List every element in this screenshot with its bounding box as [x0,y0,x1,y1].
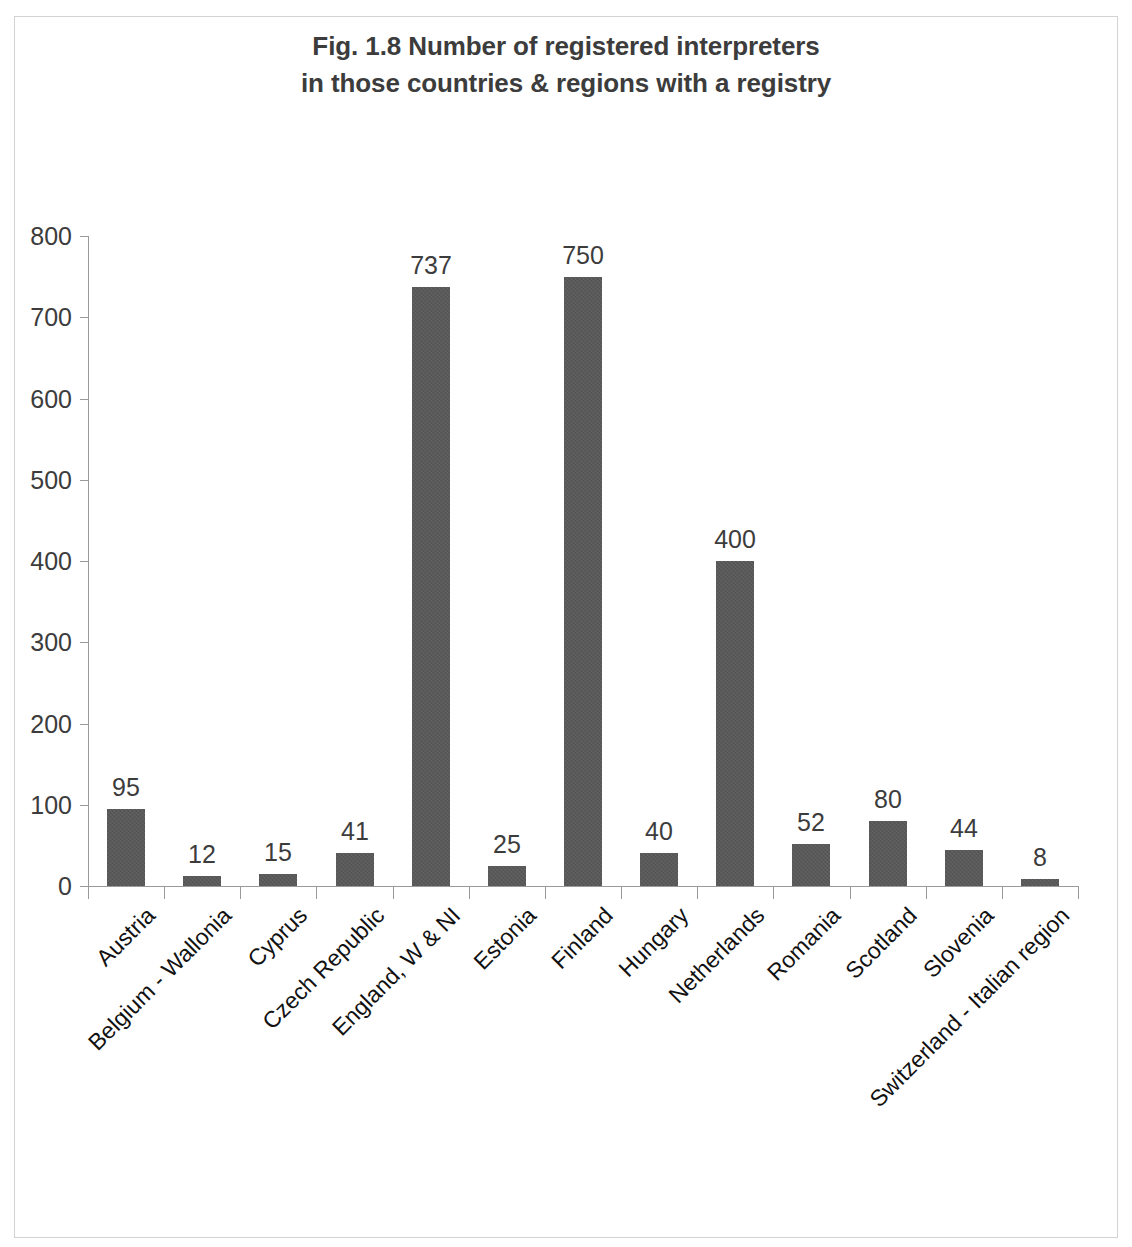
y-axis-tick [80,724,89,725]
x-axis-category-label: Belgium - Wallonia [83,902,237,1056]
y-axis-tick-label: 600 [10,384,72,413]
x-axis-tick [850,887,851,899]
bar[interactable] [640,853,678,886]
x-axis-category-label: Romania [762,902,846,986]
x-axis-category-label: Scotland [841,902,923,984]
bar[interactable] [792,844,830,886]
y-axis-tick [80,642,89,643]
x-axis-tick [240,887,241,899]
x-axis-line [88,886,1079,887]
x-axis-tick [621,887,622,899]
x-axis-tick [393,887,394,899]
bar-value-label: 80 [874,785,902,814]
x-axis-tick [1078,887,1079,899]
bar[interactable] [183,876,221,886]
bar-value-label: 41 [341,817,369,846]
x-axis-tick [926,887,927,899]
x-axis-tick [88,887,89,899]
bar[interactable] [259,874,297,886]
x-axis-tick [316,887,317,899]
x-axis-tick [697,887,698,899]
bar[interactable] [1021,879,1059,886]
x-axis-category-label: Austria [91,902,161,972]
y-axis-tick [80,236,89,237]
y-axis-tick [80,561,89,562]
bar[interactable] [412,287,450,886]
x-axis-category-label: England, W & NI [327,902,466,1041]
plot-area: 8007006005004003002001000 95121541737257… [0,0,1132,1247]
x-axis-tick [164,887,165,899]
y-axis-tick-label: 200 [10,709,72,738]
bar-value-label: 400 [714,525,756,554]
bar-value-label: 737 [410,251,452,280]
x-axis-tick [773,887,774,899]
bar[interactable] [488,866,526,886]
y-axis-tick-label: 300 [10,628,72,657]
y-axis-tick [80,317,89,318]
bar-value-label: 95 [112,773,140,802]
bar[interactable] [716,561,754,886]
y-axis-tick-label: 800 [10,222,72,251]
bar-value-label: 15 [264,838,292,867]
bar-value-label: 12 [188,840,216,869]
x-axis-tick [545,887,546,899]
y-axis-tick [80,399,89,400]
y-axis-tick-label: 500 [10,465,72,494]
x-axis-category-label: Cyprus [242,902,313,973]
bar[interactable] [107,809,145,886]
bar[interactable] [869,821,907,886]
y-axis-tick-label: 0 [10,872,72,901]
bar-value-label: 40 [645,817,673,846]
bar[interactable] [564,277,602,886]
y-axis-tick [80,480,89,481]
bar[interactable] [336,853,374,886]
bar-value-label: 52 [797,808,825,837]
x-axis-category-label: Estonia [469,902,542,975]
bar[interactable] [945,850,983,886]
bar-value-label: 44 [950,814,978,843]
bar-value-label: 8 [1033,843,1047,872]
y-axis-tick [80,805,89,806]
bar-value-label: 25 [493,830,521,859]
y-axis-tick-label: 700 [10,303,72,332]
figure-container: Fig. 1.8 Number of registered interprete… [0,0,1132,1247]
bar-value-label: 750 [562,241,604,270]
x-axis-tick [469,887,470,899]
y-axis-tick-label: 400 [10,547,72,576]
x-axis-tick [1002,887,1003,899]
x-axis-category-label: Finland [546,902,618,974]
y-axis-tick-label: 100 [10,790,72,819]
